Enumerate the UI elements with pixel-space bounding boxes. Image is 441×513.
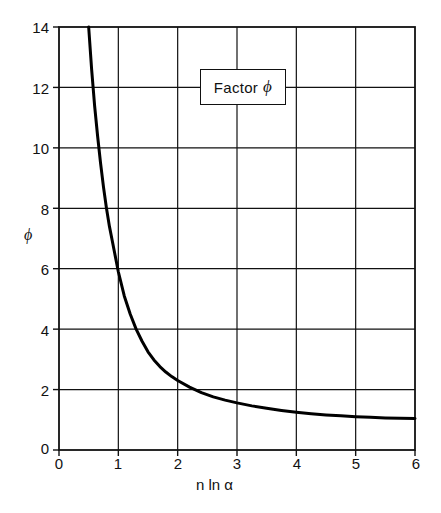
chart-figure: 14 12 10 8 6 4 2 0 0 1 2 3 4 5 6 ϕ n ln … [0,0,441,513]
x-tick-label: 6 [406,455,426,472]
y-tick-label: 6 [21,261,49,278]
y-tick-label: 4 [21,322,49,339]
legend-label: Factor [214,79,258,96]
x-tick-label: 4 [287,455,307,472]
x-tick-label: 2 [168,455,188,472]
y-tick-label: 2 [21,382,49,399]
y-tick-label: 0 [21,440,49,457]
y-tick-label: 8 [21,201,49,218]
x-tick-label: 5 [346,455,366,472]
legend-symbol: ϕ [258,77,272,97]
x-tick-label: 1 [108,455,128,472]
y-tick-label: 14 [21,19,49,36]
legend-box: Factor ϕ [200,69,286,105]
y-tick-label: 12 [21,80,49,97]
y-tick-label: 10 [21,140,49,157]
x-axis-label: n ln α [196,476,233,493]
x-tick-label: 0 [49,455,69,472]
y-axis-label: ϕ [24,226,32,244]
x-tick-label: 3 [227,455,247,472]
